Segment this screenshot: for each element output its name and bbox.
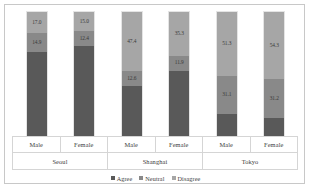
axis-label-gender: Female (250, 136, 299, 153)
axis-row-city: SeoulShanghaiTokyo (13, 153, 298, 170)
stacked-bar-tokyo-male[interactable]: 51.331.1 (216, 11, 238, 137)
bar-segment-agree (27, 52, 47, 136)
bar-value-label: 12.4 (80, 36, 89, 41)
bar-segment-agree (217, 114, 237, 136)
bar-segment-agree (122, 86, 142, 136)
bar-group-shanghai: 47.412.635.311.9 (108, 11, 203, 137)
stacked-bar-tokyo-female[interactable]: 54.331.2 (263, 11, 285, 137)
bar-segment-disagree: 51.3 (217, 12, 237, 76)
bar-slot: 35.311.9 (156, 11, 204, 137)
bar-value-label: 11.9 (175, 60, 184, 65)
bar-segment-disagree: 47.4 (122, 12, 142, 71)
stacked-bar-seoul-male[interactable]: 17.014.9 (26, 11, 48, 137)
bar-value-label: 12.6 (127, 76, 136, 81)
bar-slot: 47.412.6 (108, 11, 156, 137)
bar-segment-agree (74, 46, 94, 136)
legend-item-disagree[interactable]: Disagree (172, 175, 201, 182)
bar-slot: 15.012.4 (61, 11, 109, 137)
bar-segment-neutral: 14.9 (27, 33, 47, 51)
bar-value-label: 15.0 (80, 19, 89, 24)
axis-row-gender: MaleFemaleMaleFemaleMaleFemale (13, 137, 298, 153)
bar-value-label: 31.2 (270, 96, 279, 101)
axis-label-city: Seoul (12, 152, 108, 170)
axis-label-gender: Male (12, 136, 61, 153)
bar-segment-agree (264, 118, 284, 136)
bar-segment-neutral: 12.4 (74, 31, 94, 46)
legend-label: Agree (117, 175, 133, 182)
bar-group-seoul: 17.014.915.012.4 (13, 11, 108, 137)
axis-label-table: MaleFemaleMaleFemaleMaleFemale SeoulShan… (13, 137, 298, 170)
bar-slot: 17.014.9 (13, 11, 61, 137)
bar-segment-disagree: 15.0 (74, 12, 94, 31)
axis-label-gender: Female (60, 136, 109, 153)
axis-label-city: Shanghai (107, 152, 203, 170)
bar-value-label: 14.9 (32, 40, 41, 45)
bar-value-label: 54.3 (270, 43, 279, 48)
bar-value-label: 17.0 (32, 20, 41, 25)
bar-segment-disagree: 17.0 (27, 12, 47, 33)
bar-value-label: 51.3 (222, 41, 231, 46)
bar-segment-neutral: 31.2 (264, 79, 284, 118)
bar-segment-neutral: 11.9 (169, 56, 189, 71)
legend-swatch-icon (139, 176, 143, 180)
bar-value-label: 31.1 (222, 92, 231, 97)
axis-label-gender: Male (107, 136, 156, 153)
axis-label-gender: Male (202, 136, 251, 153)
bar-slot: 51.331.1 (203, 11, 251, 137)
legend-swatch-icon (111, 176, 115, 180)
axis-label-city: Tokyo (202, 152, 298, 170)
stacked-bar-shanghai-female[interactable]: 35.311.9 (168, 11, 190, 137)
bar-segment-agree (169, 71, 189, 136)
bar-slot: 54.331.2 (251, 11, 299, 137)
plot-area: 17.014.915.012.447.412.635.311.951.331.1… (13, 11, 298, 137)
chart-legend: AgreeNeutralDisagree (5, 172, 306, 184)
legend-swatch-icon (172, 176, 176, 180)
legend-item-agree[interactable]: Agree (111, 175, 133, 182)
stacked-bar-seoul-female[interactable]: 15.012.4 (73, 11, 95, 137)
legend-label: Neutral (145, 175, 164, 182)
chart-frame: 17.014.915.012.447.412.635.311.951.331.1… (4, 4, 305, 184)
bar-group-tokyo: 51.331.154.331.2 (203, 11, 298, 137)
legend-item-neutral[interactable]: Neutral (139, 175, 164, 182)
bar-segment-disagree: 54.3 (264, 12, 284, 79)
axis-label-gender: Female (155, 136, 204, 153)
legend-label: Disagree (178, 175, 201, 182)
bar-segment-disagree: 35.3 (169, 12, 189, 56)
bar-segment-neutral: 31.1 (217, 76, 237, 115)
bar-value-label: 35.3 (175, 31, 184, 36)
stacked-bar-shanghai-male[interactable]: 47.412.6 (121, 11, 143, 137)
bar-value-label: 47.4 (127, 39, 136, 44)
bar-segment-neutral: 12.6 (122, 71, 142, 87)
